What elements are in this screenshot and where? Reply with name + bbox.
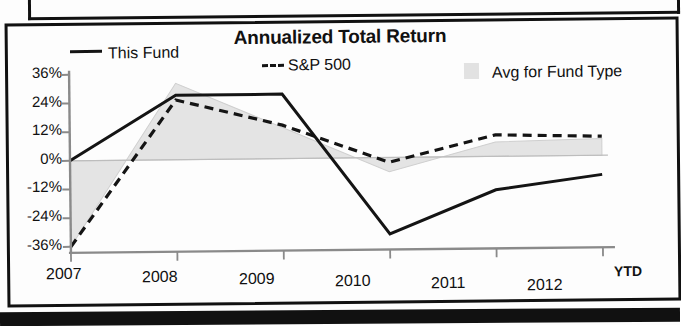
series-line-this-fund <box>69 91 602 238</box>
series-line-sp500 <box>69 96 602 247</box>
x-axis-line <box>69 247 615 253</box>
